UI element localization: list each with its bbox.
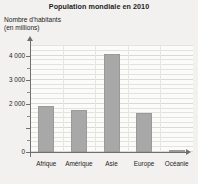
y-tick-minor [27,68,31,69]
y-tick [26,128,31,129]
x-axis-tick-labels: AfriqueAmériqueAsieEuropeOcéanie [0,160,198,174]
plot-area [30,46,193,152]
chart-container: Population mondiale en 2010 Nombre d'hab… [0,0,198,184]
y-tick-label: 3 000 [9,76,25,83]
y-tick [26,56,31,57]
bar-europe [136,113,152,152]
bar-asie [104,54,120,152]
x-tick-label: Amérique [63,160,96,167]
y-tick-label: 4 000 [9,52,25,59]
gridline [30,45,193,46]
y-tick [26,80,31,81]
y-tick-minor [27,92,31,93]
gridline-vertical [160,46,161,152]
gridline [30,50,193,51]
y-tick [26,104,31,105]
bar-afrique [38,106,54,152]
y-tick-minor [27,116,31,117]
x-axis-line [30,152,187,153]
y-tick-minor [27,140,31,141]
y-tick-label: 2 000 [9,100,25,107]
x-tick-label: Océanie [160,160,193,167]
y-axis-tick-labels: 02 0003 0004 000 [0,0,25,184]
gridline-vertical [128,46,129,152]
x-tick-label: Afrique [30,160,63,167]
bar-amrique [71,110,87,152]
gridline-vertical [63,46,64,152]
y-axis-arrow-icon [27,36,33,41]
chart-title: Population mondiale en 2010 [0,2,198,11]
y-tick [26,152,31,153]
gridline-vertical [95,46,96,152]
x-tick-label: Europe [128,160,161,167]
y-tick-label: 0 [21,148,25,155]
x-axis-arrow-icon [186,149,191,155]
x-tick-label: Asie [95,160,128,167]
